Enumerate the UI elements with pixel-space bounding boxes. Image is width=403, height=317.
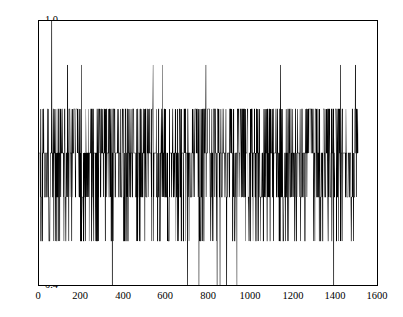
xtick-label: 1000: [240, 291, 261, 302]
xtick-label: 1600: [367, 291, 388, 302]
xtick-label: 200: [72, 291, 88, 302]
figure: 1.0 0.9 0.8 0.7 0.6 0.5 0.4 0 200 400 60…: [0, 0, 403, 317]
xtick-label: 1200: [283, 291, 304, 302]
plot-area: [38, 20, 378, 286]
xtick-label: 600: [157, 291, 173, 302]
series-line-canvas: [39, 21, 377, 285]
xtick-label: 0: [35, 291, 40, 302]
xtick-label: 800: [200, 291, 216, 302]
xtick-label: 400: [115, 291, 131, 302]
xtick-label: 1400: [325, 291, 346, 302]
